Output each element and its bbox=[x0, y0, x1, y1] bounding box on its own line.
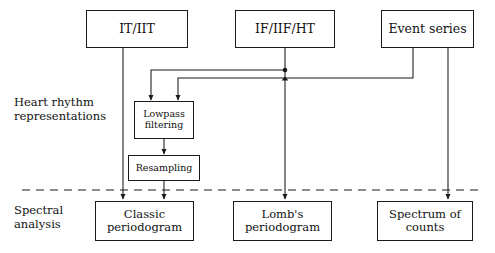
edge-if-to-lowpass bbox=[151, 70, 285, 100]
node-classic-periodogram[interactable]: Classic periodogram bbox=[95, 201, 194, 241]
row-label-spectral-analysis: Spectral analysis bbox=[14, 203, 106, 232]
node-lowpass-filtering-label: Lowpass filtering bbox=[141, 109, 187, 131]
row-label-heart-rhythm: Heart rhythm representations bbox=[14, 95, 106, 124]
flowchart-figure: Heart rhythm representations Spectral an… bbox=[0, 0, 495, 253]
node-resampling[interactable]: Resampling bbox=[128, 155, 200, 181]
node-classic-periodogram-label: Classic periodogram bbox=[105, 208, 184, 234]
node-it-iit[interactable]: IT/IIT bbox=[86, 10, 188, 48]
junction-dot bbox=[283, 68, 288, 73]
node-it-iit-label: IT/IIT bbox=[117, 22, 157, 36]
node-if-iif-ht[interactable]: IF/IIF/HT bbox=[235, 10, 335, 48]
node-event-series-label: Event series bbox=[386, 22, 468, 36]
node-spectrum-of-counts[interactable]: Spectrum of counts bbox=[377, 201, 473, 241]
node-lowpass-filtering[interactable]: Lowpass filtering bbox=[134, 101, 194, 139]
node-lombs-periodogram-label: Lomb's periodogram bbox=[243, 208, 322, 234]
node-event-series[interactable]: Event series bbox=[381, 10, 474, 48]
node-if-iif-ht-label: IF/IIF/HT bbox=[253, 22, 317, 36]
node-spectrum-of-counts-label: Spectrum of counts bbox=[387, 208, 463, 234]
node-lombs-periodogram[interactable]: Lomb's periodogram bbox=[233, 201, 332, 241]
node-resampling-label: Resampling bbox=[134, 163, 195, 174]
edge-event-to-lowpass bbox=[178, 48, 413, 100]
